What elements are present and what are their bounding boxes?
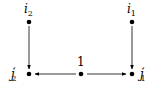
node-1 <box>79 72 84 77</box>
label-j2-prime: j′2 <box>8 65 17 83</box>
label-i1: i1 <box>127 2 136 18</box>
node-i2 <box>27 20 32 25</box>
node-i1 <box>130 20 135 25</box>
label-j1-prime: j′1 <box>137 65 146 83</box>
diagram-canvas: i2 i1 j′2 1 j′1 <box>0 0 158 88</box>
node-j2-prime <box>27 72 32 77</box>
label-i2: i2 <box>24 2 33 18</box>
label-1: 1 <box>77 55 85 69</box>
node-j1-prime <box>130 72 135 77</box>
